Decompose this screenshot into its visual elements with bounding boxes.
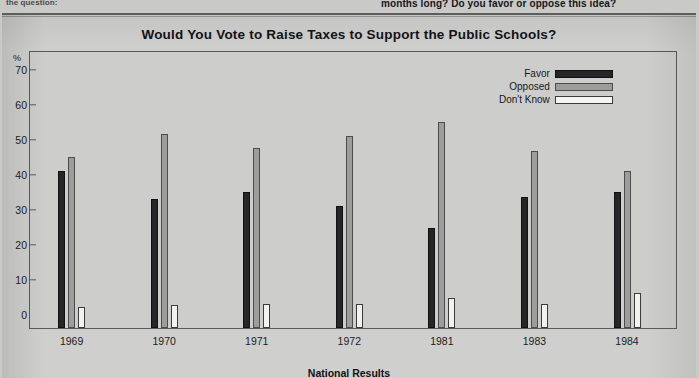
legend-label: Don't Know: [499, 94, 550, 105]
y-axis-tick-mark: [29, 139, 36, 140]
y-axis-tick-mark: [29, 209, 36, 210]
page-caption-left: the question:: [6, 0, 58, 7]
x-axis-tick-label: 1969: [60, 335, 83, 347]
scanned-chart-page: the question: months long? Do you favor …: [0, 0, 699, 378]
x-axis-tick-label: 1984: [615, 335, 638, 347]
bar-1984-favor: [614, 192, 621, 329]
legend-swatch: [555, 70, 613, 78]
page-caption-right: months long? Do you favor or oppose this…: [381, 0, 616, 9]
y-axis-tick-mark: [29, 174, 36, 175]
x-axis-tick-label: 1971: [245, 335, 268, 347]
x-axis-tick-label: 1983: [523, 335, 546, 347]
bar-1984-don-t-know: [634, 293, 641, 328]
legend-label: Favor: [524, 68, 550, 79]
chart-panel: Would You Vote to Raise Taxes to Support…: [2, 13, 696, 378]
y-axis-tick-mark: [29, 279, 36, 280]
x-axis-tick-label: 1972: [338, 335, 361, 347]
y-axis-tick-mark: [29, 69, 36, 70]
legend-swatch: [555, 83, 613, 91]
legend-item-favor: Favor: [499, 68, 613, 79]
x-axis-title: National Results: [2, 367, 696, 378]
chart-legend: FavorOpposedDon't Know: [499, 68, 613, 107]
x-axis-tick-label: 1970: [152, 335, 175, 347]
y-axis-tick-mark: [29, 104, 36, 105]
legend-swatch: [555, 96, 613, 104]
y-axis-tick-mark: [29, 244, 36, 245]
legend-item-don-t-know: Don't Know: [499, 94, 613, 105]
x-axis-tick-label: 1981: [430, 335, 453, 347]
legend-item-opposed: Opposed: [499, 81, 613, 92]
legend-label: Opposed: [509, 81, 550, 92]
bar-1984-opposed: [624, 171, 631, 329]
